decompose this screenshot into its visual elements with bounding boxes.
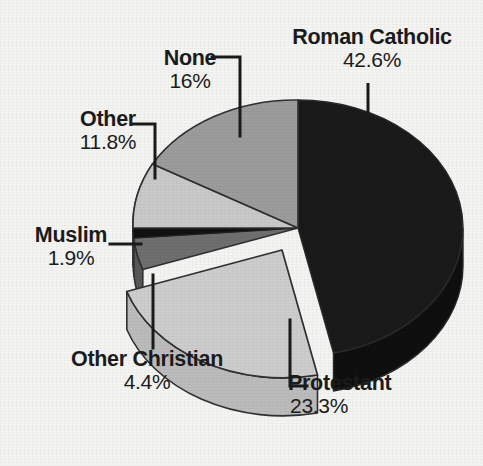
- slice-label-name-roman-catholic: Roman Catholic: [262, 26, 482, 49]
- slice-label-other-christian: Other Christian 4.4%: [42, 348, 252, 393]
- slice-label-name-protestant: Protestant: [288, 372, 466, 395]
- slice-label-name-other-christian: Other Christian: [42, 348, 252, 371]
- slice-label-none: None 16%: [130, 47, 250, 92]
- slice-value-roman-catholic: 42.6%: [262, 49, 482, 71]
- slice-label-name-muslim: Muslim: [8, 224, 134, 247]
- slice-label-other: Other 11.8%: [48, 108, 168, 153]
- slice-label-roman-catholic: Roman Catholic 42.6%: [262, 26, 482, 71]
- slice-label-muslim: Muslim 1.9%: [8, 224, 134, 269]
- slice-value-muslim: 1.9%: [8, 247, 134, 269]
- pie-chart: Roman Catholic 42.6% None 16% Other 11.8…: [0, 0, 483, 466]
- slice-label-name-none: None: [130, 47, 250, 70]
- slice-label-protestant: Protestant 23.3%: [288, 372, 466, 417]
- slice-value-protestant: 23.3%: [288, 395, 466, 417]
- slice-value-other: 11.8%: [48, 131, 168, 153]
- slice-value-none: 16%: [130, 70, 250, 92]
- slice-value-other-christian: 4.4%: [42, 371, 252, 393]
- slice-label-name-other: Other: [48, 108, 168, 131]
